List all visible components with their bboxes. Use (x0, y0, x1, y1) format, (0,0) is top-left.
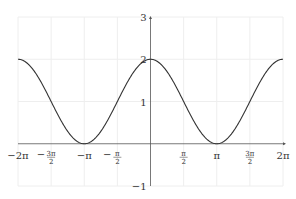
x-tick-labels: −2π−3π2−π−π2π2π3π22π (7, 149, 290, 166)
tick-label-sign: − (103, 149, 111, 160)
x-tick-label: −π (77, 150, 92, 161)
tick-label-numerator: π (181, 150, 186, 158)
tick-label-sign: − (37, 149, 45, 160)
tick-label-numerator: 3π (245, 150, 254, 158)
tick-label-denominator: 2 (115, 158, 119, 166)
tick-label-numerator: 3π (47, 150, 56, 158)
x-tick-label: π (213, 150, 220, 161)
x-tick-label: −2π (7, 150, 29, 161)
tick-label-denominator: 2 (248, 158, 252, 166)
x-axis-arrow-icon (283, 142, 286, 145)
plot-area: −2π−3π2−π−π2π2π3π22π −1123 (0, 0, 296, 199)
cosine-plot: −2π−3π2−π−π2π2π3π22π −1123 (0, 0, 296, 199)
tick-label-denominator: 2 (49, 158, 53, 166)
tick-label-numerator: π (115, 150, 120, 158)
tick-label-denominator: 2 (181, 158, 185, 166)
y-tick-label: 1 (140, 97, 146, 108)
y-tick-label: 3 (140, 12, 146, 23)
x-tick-label: 2π (277, 150, 290, 161)
y-tick-label: −1 (132, 181, 147, 192)
